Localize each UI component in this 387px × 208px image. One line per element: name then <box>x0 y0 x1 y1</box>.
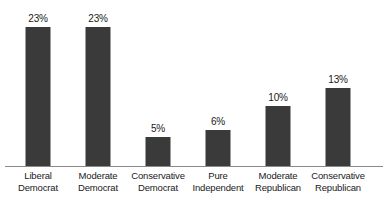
bar-rect <box>206 130 231 167</box>
bar-value-label: 23% <box>28 13 47 24</box>
bar-rect <box>86 27 111 167</box>
bar-column: 13% <box>326 0 351 167</box>
x-axis-tick-label-line2: Independent <box>186 182 250 194</box>
x-axis-tick-label-line1: Conservative <box>306 170 370 182</box>
bar-rect <box>146 137 171 167</box>
x-axis-line <box>5 166 383 167</box>
plot-area: 23%23%5%6%10%13% <box>0 0 387 167</box>
bar-value-label: 6% <box>211 116 225 127</box>
x-axis-labels: LiberalDemocratModerateDemocratConservat… <box>0 170 387 204</box>
bar-group: 23% <box>8 0 68 167</box>
bar-value-label: 5% <box>151 123 165 134</box>
bar-rect <box>326 88 351 167</box>
bar-value-label: 13% <box>328 74 347 85</box>
bar-column: 23% <box>26 0 51 167</box>
x-axis-tick-label-line2: Democrat <box>6 182 70 194</box>
x-axis-tick-label-line1: Liberal <box>6 170 70 182</box>
x-axis-tick-label-line1: Moderate <box>66 170 130 182</box>
bar-value-label: 23% <box>88 13 107 24</box>
bar-column: 6% <box>206 0 231 167</box>
bar-group: 10% <box>248 0 308 167</box>
x-axis-tick-label-line1: Moderate <box>246 170 310 182</box>
bar-column: 10% <box>266 0 291 167</box>
x-axis-tick-label-line2: Republican <box>246 182 310 194</box>
bar-rect <box>266 106 291 167</box>
x-axis-tick-label: ModerateRepublican <box>246 170 310 194</box>
x-axis-tick-label-line2: Republican <box>306 182 370 194</box>
x-axis-tick-label-line2: Democrat <box>66 182 130 194</box>
x-axis-tick-label: ConservativeDemocrat <box>126 170 190 194</box>
x-axis-tick-label-line2: Democrat <box>126 182 190 194</box>
bar-rect <box>26 27 51 167</box>
bar-column: 5% <box>146 0 171 167</box>
bar-value-label: 10% <box>268 92 287 103</box>
bar-group: 5% <box>128 0 188 167</box>
bar-group: 6% <box>188 0 248 167</box>
bar-group: 13% <box>308 0 368 167</box>
x-axis-tick-label-line1: Conservative <box>126 170 190 182</box>
x-axis-tick-label: ConservativeRepublican <box>306 170 370 194</box>
bar-column: 23% <box>86 0 111 167</box>
x-axis-tick-label: ModerateDemocrat <box>66 170 130 194</box>
x-axis-tick-label: PureIndependent <box>186 170 250 194</box>
bar-group: 23% <box>68 0 128 167</box>
bar-chart: 23%23%5%6%10%13% LiberalDemocratModerate… <box>0 0 387 208</box>
x-axis-tick-label-line1: Pure <box>186 170 250 182</box>
x-axis-tick-label: LiberalDemocrat <box>6 170 70 194</box>
